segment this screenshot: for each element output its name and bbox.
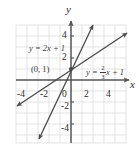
x-tick-label-2: 2 — [84, 90, 89, 100]
fraction-denominator: 3 — [100, 74, 105, 81]
graph-figure: y x -4 -2 0 2 4 4 2 -2 -4 y = 2x + 1 y =… — [0, 0, 139, 149]
intersection-point — [69, 67, 73, 71]
y-tick-label-4: 4 — [62, 31, 67, 41]
x-tick-label-0: 0 — [62, 90, 67, 100]
x-tick-label-neg4: -4 — [17, 90, 25, 100]
y-tick-label-neg2: -2 — [61, 102, 69, 112]
equation-label-line2: y = 23x + 1 — [86, 65, 124, 80]
fraction-numerator: 2 — [100, 65, 105, 72]
intercept-point-label: (0, 1) — [31, 65, 49, 74]
x-tick-label-neg2: -2 — [40, 90, 48, 100]
x-axis-label: x — [130, 79, 135, 90]
y-axis-label: y — [66, 4, 71, 15]
equation2-lead: y = — [86, 67, 100, 77]
x-tick-label-4: 4 — [106, 90, 111, 100]
fraction-two-thirds: 23 — [100, 65, 105, 80]
equation2-tail: x + 1 — [106, 67, 124, 77]
axes — [16, 21, 129, 143]
y-tick-label-2: 2 — [62, 53, 67, 63]
y-tick-label-neg4: -4 — [61, 124, 69, 134]
equation-label-line1: y = 2x + 1 — [29, 44, 65, 53]
